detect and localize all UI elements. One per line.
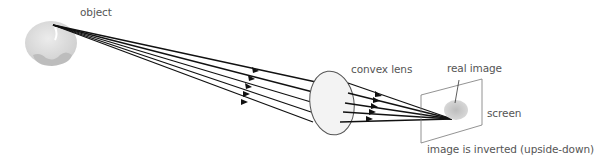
label-convex-lens: convex lens <box>351 63 412 75</box>
real-image-icon <box>444 100 468 120</box>
label-real-image: real image <box>447 62 502 74</box>
label-object: object <box>80 6 112 18</box>
real-image-leader <box>455 80 459 103</box>
label-image-inverted: image is inverted (upside-down) <box>427 143 594 155</box>
refracted-rays <box>340 83 452 122</box>
incident-rays <box>53 25 316 122</box>
label-screen: screen <box>487 107 521 119</box>
convex-lens-icon <box>306 68 358 138</box>
object-icon <box>25 21 77 66</box>
